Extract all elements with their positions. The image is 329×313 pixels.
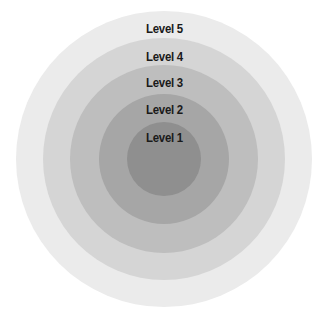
label-level-2: Level 2	[20, 103, 310, 117]
label-level-1: Level 1	[20, 131, 310, 145]
label-level-4: Level 4	[20, 50, 310, 64]
label-level-3: Level 3	[20, 76, 310, 90]
label-level-5: Level 5	[20, 22, 310, 36]
